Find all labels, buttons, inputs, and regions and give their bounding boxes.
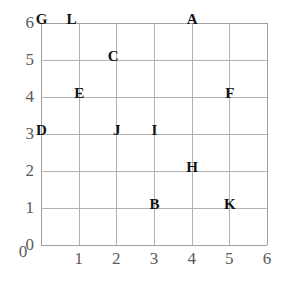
y-axis-tick-4: 4: [16, 88, 34, 105]
coordinate-grid-plot: 0123456 0123456 GLACEFDJIHBK: [0, 0, 284, 282]
point-label-L: L: [67, 12, 77, 27]
y-axis-tick-0: 0: [16, 236, 34, 253]
grid-line-horizontal-0: [41, 245, 267, 246]
point-label-B: B: [149, 197, 159, 212]
point-label-G: G: [36, 12, 48, 27]
x-axis-tick-6: 6: [257, 250, 277, 267]
x-axis-tick-3: 3: [144, 250, 164, 267]
x-axis-tick-2: 2: [106, 250, 126, 267]
grid-line-vertical-6: [267, 23, 268, 245]
y-axis-tick-3: 3: [16, 125, 34, 142]
y-axis-tick-1: 1: [16, 199, 34, 216]
x-axis-tick-5: 5: [219, 250, 239, 267]
x-axis-tick-1: 1: [69, 250, 89, 267]
point-label-J: J: [113, 123, 121, 138]
point-label-F: F: [225, 86, 234, 101]
y-axis-tick-2: 2: [16, 162, 34, 179]
grid-line-horizontal-2: [41, 171, 267, 172]
point-label-D: D: [36, 123, 47, 138]
point-label-H: H: [186, 160, 198, 175]
y-axis-tick-5: 5: [16, 51, 34, 68]
point-label-C: C: [108, 49, 119, 64]
x-axis-tick-4: 4: [182, 250, 202, 267]
y-axis-tick-6: 6: [16, 14, 34, 31]
point-label-I: I: [152, 123, 158, 138]
point-label-K: K: [224, 197, 236, 212]
point-label-A: A: [187, 12, 198, 27]
grid-line-horizontal-5: [41, 60, 267, 61]
point-label-E: E: [74, 86, 84, 101]
